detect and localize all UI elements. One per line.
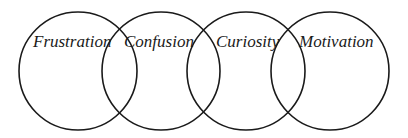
label-confusion: Confusion: [124, 32, 194, 51]
circle-outline: [102, 12, 220, 130]
circle-confusion: Confusion: [102, 12, 220, 130]
label-curiosity: Curiosity: [216, 32, 280, 51]
overlapping-circles-diagram: Frustration Confusion Curiosity Motivati…: [0, 0, 408, 138]
circle-motivation: Motivation: [271, 12, 389, 130]
label-frustration: Frustration: [32, 32, 111, 51]
label-motivation: Motivation: [298, 32, 374, 51]
circle-outline: [271, 12, 389, 130]
